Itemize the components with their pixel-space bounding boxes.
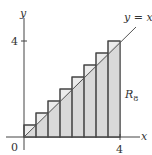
x-tick-label: 4 xyxy=(116,143,123,155)
origin-label: 0 xyxy=(11,141,18,154)
y-tick-label: 4 xyxy=(11,35,18,48)
region-label: R8 xyxy=(124,88,138,103)
y-axis-label: y xyxy=(19,7,27,20)
function-label: y = x xyxy=(123,11,152,24)
riemann-sum-diagram: y x 0 4 4 y = x R8 xyxy=(0,0,152,155)
x-axis-label: x xyxy=(141,130,148,143)
